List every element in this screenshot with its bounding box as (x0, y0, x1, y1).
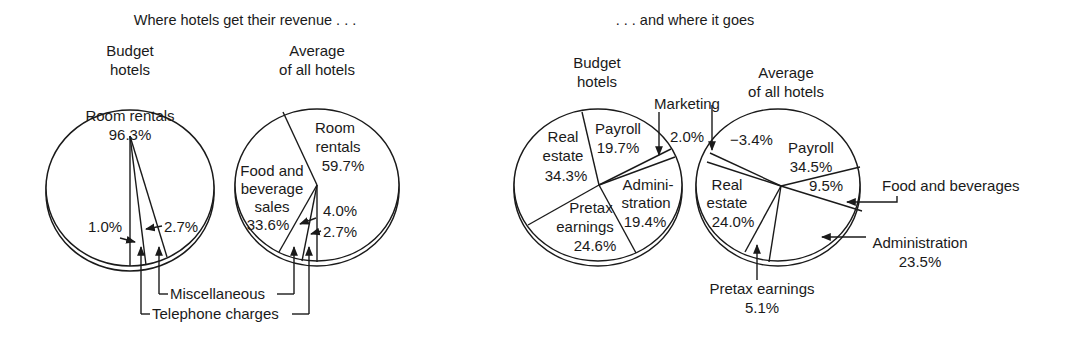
slice-label: Room rentals (85, 107, 174, 124)
legend-administration: Administration (872, 234, 967, 251)
pie-title: of all hotels (748, 83, 824, 100)
pie-title: of all hotels (279, 61, 355, 78)
slice-label: Pretax (569, 199, 613, 216)
pie-title: hotels (110, 61, 150, 78)
pie-title: Average (289, 42, 345, 59)
slice-label: Real (712, 176, 743, 193)
slice-value: 9.5% (809, 177, 843, 194)
legend-miscellaneous: Miscellaneous (170, 285, 265, 302)
slice-value: 34.3% (545, 167, 588, 184)
hotel-revenue-expense-charts: Where hotels get their revenue . . . . .… (0, 0, 1072, 340)
legend-pretax-earnings: Pretax earnings (709, 280, 814, 297)
slice-value: 19.7% (597, 139, 640, 156)
slice-value: 2.7% (164, 218, 198, 235)
slice-label: Room (315, 119, 355, 136)
slice-label: beverage (241, 180, 304, 197)
legend-food-and-beverages: Food and beverages (882, 177, 1020, 194)
pie-title: Budget (573, 54, 621, 71)
slice-value: 24.0% (712, 213, 755, 230)
slice-value: 1.0% (88, 218, 122, 235)
pie-title: Budget (106, 42, 154, 59)
slice-value: 19.4% (624, 213, 667, 230)
slice-value: 4.0% (323, 202, 357, 219)
pie-average-expenses: Average of all hotels −3.4% Payroll 34.5… (696, 64, 1020, 316)
slice-label: estate (543, 147, 584, 164)
slice-label: Marketing (654, 95, 720, 112)
revenue-group-title: Where hotels get their revenue . . . (134, 12, 356, 28)
pie-title: hotels (577, 73, 617, 90)
slice-value: 2.0% (670, 128, 704, 145)
slice-label: Admini- (623, 176, 674, 193)
slice-value: −3.4% (730, 131, 773, 148)
slice-value: 34.5% (790, 158, 833, 175)
pie-budget-expenses: Budget hotels Real estate 34.3% Payroll … (514, 54, 720, 266)
revenue-legend: Miscellaneous Telephone charges (141, 285, 309, 322)
slice-label: Payroll (788, 139, 834, 156)
pie-title: Average (758, 64, 814, 81)
slice-label: rentals (315, 138, 360, 155)
slice-label: estate (707, 194, 748, 211)
pie-budget-revenue: Budget hotels Room rentals 96.3% 1.0% 2.… (46, 42, 214, 314)
slice-value: 59.7% (322, 157, 365, 174)
slice-value: 5.1% (745, 299, 779, 316)
slice-value: 24.6% (574, 237, 617, 254)
slice-value: 2.7% (323, 223, 357, 240)
expense-group-title: . . . and where it goes (616, 12, 755, 28)
slice-value: 33.6% (247, 216, 290, 233)
pie-average-revenue: Average of all hotels Room rentals 59.7%… (235, 42, 399, 314)
legend-telephone-charges: Telephone charges (152, 305, 279, 322)
slice-label: Payroll (595, 120, 641, 137)
slice-label: Real (548, 128, 579, 145)
slice-label: sales (254, 198, 289, 215)
slice-value: 96.3% (109, 126, 152, 143)
slice-value: 23.5% (899, 253, 942, 270)
slice-label: earnings (556, 218, 614, 235)
slice-label: Food and (240, 162, 303, 179)
slice-label: stration (621, 194, 670, 211)
